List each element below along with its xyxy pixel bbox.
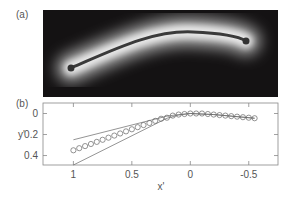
data-point	[129, 127, 134, 132]
x-tick-label: 1	[71, 169, 77, 180]
plot-frame	[43, 103, 278, 165]
data-point	[106, 135, 111, 140]
x-tick-label: -0.5	[240, 169, 258, 180]
y-tick-label: 0	[32, 108, 38, 119]
data-point	[88, 141, 93, 146]
x-tick-label: 0	[188, 169, 194, 180]
y-axis-label: y'	[18, 129, 25, 140]
data-point	[94, 139, 99, 144]
data-point	[82, 143, 87, 148]
data-point	[199, 111, 204, 116]
x-axis-label: x'	[158, 181, 165, 192]
data-point	[71, 148, 76, 153]
data-point	[112, 133, 117, 138]
lower-bound-line	[73, 114, 254, 165]
data-point	[118, 131, 123, 136]
data-point	[141, 122, 146, 127]
data-point	[123, 129, 128, 134]
data-point	[135, 125, 140, 130]
y-tick-label: 0.2	[24, 129, 38, 140]
data-point	[100, 137, 105, 142]
data-point	[77, 146, 82, 151]
y-tick-label: 0.4	[24, 150, 38, 161]
x-tick-label: 0.5	[125, 169, 139, 180]
profile-plot: 10.50-0.500.20.4x'y'	[0, 0, 292, 202]
